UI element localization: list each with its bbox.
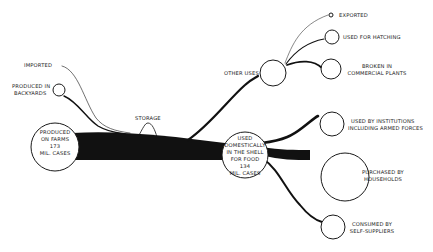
node-institutions <box>320 112 344 136</box>
flow-imported <box>62 66 130 133</box>
exported-label: EXPORTED <box>339 12 368 18</box>
flow-to-self-suppliers <box>262 158 322 222</box>
domestic-value: 134 <box>240 163 251 169</box>
flow-to-households <box>262 147 310 160</box>
flow-backyards <box>64 96 125 134</box>
hatching-label: USED FOR HATCHING <box>343 34 401 40</box>
farms-value: 173 <box>50 143 60 149</box>
node-exported <box>329 13 333 17</box>
domestic-label-3: IN THE SHELL <box>226 149 263 155</box>
node-other-uses <box>260 60 286 86</box>
flow-farms-to-domestic <box>72 132 226 160</box>
storage-label: STORAGE <box>135 115 161 121</box>
institutions-label-1: USED BY INSTITUTIONS <box>351 118 414 124</box>
node-self-suppliers <box>321 215 345 239</box>
imported-label: IMPORTED <box>24 62 52 68</box>
institutions-label-2: INCLUDING ARMED FORCES <box>348 125 423 131</box>
self-suppliers-label-2: SELF-SUPPLIERS <box>350 228 394 234</box>
domestic-label-4: FOR FOOD <box>231 156 260 162</box>
other-uses-label: OTHER USES <box>224 70 259 76</box>
node-produced-in-backyards <box>53 84 65 96</box>
flow-to-other-uses <box>188 76 258 140</box>
node-used-for-hatching <box>325 30 339 44</box>
node-broken-in-commercial-plants <box>321 59 341 79</box>
farms-label-2: ON FARMS <box>41 136 69 142</box>
flow-to-hatching <box>286 39 324 64</box>
domestic-label-1: USED <box>238 135 253 141</box>
households-label-1: PURCHASED BY <box>362 169 404 175</box>
flow-to-broken <box>287 62 322 68</box>
domestic-label-2: DOMESTICALLY <box>224 142 266 148</box>
broken-label-2: COMMERCIAL PLANTS <box>347 70 406 76</box>
node-households <box>321 153 369 201</box>
egg-flow-diagram: PRODUCED ON FARMS 173 MIL. CASES PRODUCE… <box>0 0 433 252</box>
domestic-unit: MIL. CASES <box>230 170 261 176</box>
farms-label-1: PRODUCED <box>40 129 71 135</box>
households-label-2: HOUSEHOLDS <box>364 176 402 182</box>
backyards-label-1: PRODUCED IN <box>12 83 50 89</box>
farms-unit: MIL. CASES <box>40 150 71 156</box>
flow-to-institutions <box>262 116 318 143</box>
broken-label-1: BROKEN IN <box>362 63 392 69</box>
backyards-label-2: BACKYARDS <box>14 90 46 96</box>
self-suppliers-label-1: CONSUMED BY <box>352 221 393 227</box>
